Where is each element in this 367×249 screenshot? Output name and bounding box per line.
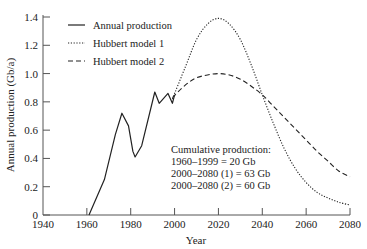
x-tick-label: 1960 [76,218,99,230]
legend-label: Hubbert model 1 [93,38,164,49]
x-tick-label: 2040 [251,218,274,230]
x-tick-label: 1980 [120,218,143,230]
x-tick-label: 2000 [164,218,187,230]
x-tick-label: 2080 [339,218,362,230]
chart-canvas: 00.20.40.60.81.01.21.4194019601980200020… [0,0,367,249]
legend-label: Annual production [93,20,173,31]
annotation-line: Cumulative production: [171,144,271,155]
y-tick-label: 1.0 [24,68,38,80]
series-annual-production [89,92,175,215]
y-tick-label: 1.2 [24,39,38,51]
y-axis-label: Annual production (Gb/a) [4,58,17,173]
x-axis-label: Year [186,234,207,246]
axes: 00.20.40.60.81.01.21.4194019601980200020… [24,11,361,230]
annotation-line: 2000–2080 (2) = 60 Gb [171,180,270,192]
y-tick-label: 1.4 [24,11,38,23]
legend-label: Hubbert model 2 [93,56,164,67]
annotation-line: 1960–1999 = 20 Gb [171,156,255,167]
legend: Annual productionHubbert model 1Hubbert … [68,20,173,67]
x-tick-label: 1940 [32,218,55,230]
annotation-line: 2000–2080 (1) = 63 Gb [171,168,270,180]
y-tick-label: 0.6 [24,124,38,136]
x-tick-label: 2020 [207,218,230,230]
x-tick-label: 2060 [295,218,318,230]
annotation-box: Cumulative production:1960–1999 = 20 Gb2… [171,144,271,192]
y-tick-label: 0.8 [24,96,38,108]
y-tick-label: 0.4 [24,152,38,164]
y-tick-label: 0.2 [24,181,38,193]
